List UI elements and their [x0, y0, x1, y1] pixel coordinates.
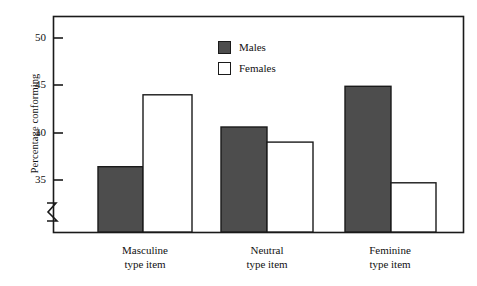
y-tick-label-40: 40: [22, 127, 46, 138]
x-category-label-neutral: Neutral type item: [207, 244, 327, 271]
axis-break-zigzag-icon: [47, 203, 57, 221]
bar-chart-figure: Percentage conforming 50 45 40 35 Males …: [0, 0, 477, 286]
legend-item-males: Males: [218, 38, 276, 56]
x-category-line-2: type item: [330, 258, 450, 272]
bar-females-feminine: [391, 183, 436, 232]
legend-label-males: Males: [239, 42, 266, 53]
y-tick-label-35: 35: [22, 174, 46, 185]
legend-swatch-males-icon: [218, 41, 231, 54]
y-tick-label-50: 50: [22, 32, 46, 43]
bar-males-neutral: [221, 127, 267, 232]
legend: Males Females: [218, 38, 276, 80]
x-category-label-masculine: Masculine type item: [85, 244, 205, 271]
y-axis-title: Percentage conforming: [29, 34, 40, 214]
x-category-line-2: type item: [207, 258, 327, 272]
bar-females-masculine: [143, 95, 192, 232]
bar-females-neutral: [267, 142, 313, 232]
x-category-line-1: Neutral: [207, 244, 327, 258]
y-tick-marks: [54, 38, 64, 180]
legend-item-females: Females: [218, 59, 276, 77]
x-category-line-1: Feminine: [330, 244, 450, 258]
x-category-line-1: Masculine: [85, 244, 205, 258]
x-category-line-2: type item: [85, 258, 205, 272]
legend-label-females: Females: [239, 63, 276, 74]
legend-swatch-females-icon: [218, 62, 231, 75]
bar-males-masculine: [98, 167, 143, 232]
x-category-label-feminine: Feminine type item: [330, 244, 450, 271]
bar-males-feminine: [345, 86, 391, 232]
y-tick-label-45: 45: [22, 79, 46, 90]
